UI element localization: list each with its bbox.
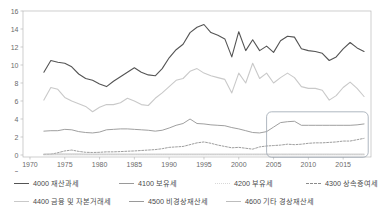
x-tick-label: 1990 (161, 161, 177, 168)
x-tick-label: 1975 (57, 161, 73, 168)
legend-swatch-icon (226, 201, 241, 202)
legend-label: 4000 재산과세 (33, 178, 79, 188)
y-tick-label: 12 (11, 44, 19, 51)
legend-label: 4500 비경상재산세 (148, 196, 208, 206)
plot-area: -202468101214161970197519801985199019952… (0, 0, 377, 172)
legend-swatch-icon (215, 183, 230, 184)
series-line-4000 (44, 25, 364, 87)
legend-label: 4400 금융 및 자본거래세 (33, 196, 111, 206)
y-tick-label: 10 (11, 62, 19, 69)
legend-item[interactable]: 4300 상속증여세 (306, 178, 378, 188)
series-line-4400 (44, 119, 364, 133)
legend-item[interactable]: 4200 부유세 (215, 178, 273, 188)
legend-row-1: 4000 재산과세4100 보유세4200 부유세4300 상속증여세 (0, 174, 377, 192)
legend-row-2: 4400 금융 및 자본거래세4500 비경상재산세4600 기타 경상재산세 (0, 192, 377, 210)
legend-item[interactable]: 4100 보유세 (119, 178, 177, 188)
x-tick-label: 1985 (127, 161, 143, 168)
legend-label: 4300 상속증여세 (325, 178, 378, 188)
x-tick-label: 2005 (266, 161, 282, 168)
y-tick-label: 8 (15, 80, 19, 87)
legend-item[interactable]: 4400 금융 및 자본거래세 (14, 196, 111, 206)
legend-item[interactable]: 4000 재산과세 (14, 178, 79, 188)
series-line-4100 (44, 63, 364, 112)
x-tick-label: 2000 (231, 161, 247, 168)
legend-swatch-icon (119, 183, 134, 184)
legend-swatch-icon (306, 183, 321, 184)
legend-item[interactable]: 4600 기타 경상재산세 (226, 196, 314, 206)
legend-swatch-icon (129, 201, 144, 202)
chart-legend: 4000 재산과세4100 보유세4200 부유세4300 상속증여세 4400… (0, 170, 377, 216)
line-chart-svg: -202468101214161970197519801985199019952… (0, 0, 377, 172)
x-tick-label: 1995 (196, 161, 212, 168)
y-tick-label: 2 (15, 134, 19, 141)
plot-frame (23, 11, 371, 157)
legend-swatch-icon (14, 201, 29, 202)
highlight-annotation-box (267, 112, 369, 157)
legend-label: 4100 보유세 (138, 178, 177, 188)
x-tick-label: 2015 (335, 161, 351, 168)
y-tick-label: 6 (15, 98, 19, 105)
y-tick-label: 14 (11, 26, 19, 33)
y-tick-label: 16 (11, 8, 19, 15)
legend-label: 4200 부유세 (234, 178, 273, 188)
x-tick-label: 1980 (92, 161, 108, 168)
x-tick-label: 2010 (301, 161, 317, 168)
y-tick-label: 4 (15, 116, 19, 123)
legend-label: 4600 기타 경상재산세 (245, 196, 314, 206)
y-tick-label: 0 (15, 152, 19, 159)
legend-swatch-icon (14, 183, 29, 184)
legend-item[interactable]: 4500 비경상재산세 (129, 196, 208, 206)
series-line-4300 (44, 138, 364, 154)
x-tick-label: 1970 (22, 161, 38, 168)
